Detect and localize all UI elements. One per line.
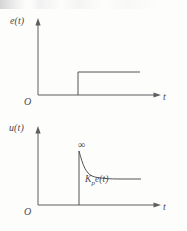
- control-response-figure: e(t) O t u(t) O t ∞ Kpe(t): [0, 0, 187, 231]
- step-curve: [78, 72, 140, 95]
- origin-label-bottom: O: [24, 207, 31, 217]
- x-axis-arrowhead: [154, 92, 162, 97]
- y-axis-label-error: e(t): [10, 16, 24, 26]
- y-axis-arrowhead: [35, 126, 40, 134]
- y-axis-arrowhead: [35, 18, 40, 26]
- x-axis-arrowhead: [154, 202, 162, 207]
- gain-error-term: e(t): [95, 174, 109, 184]
- proportional-gain-annotation: Kpe(t): [85, 175, 109, 187]
- x-axis-label-top: t: [163, 92, 166, 102]
- infinity-marker: ∞: [78, 140, 85, 150]
- origin-label-top: O: [24, 97, 31, 107]
- y-axis-label-control: u(t): [9, 123, 24, 133]
- x-axis-label-bottom: t: [163, 202, 166, 212]
